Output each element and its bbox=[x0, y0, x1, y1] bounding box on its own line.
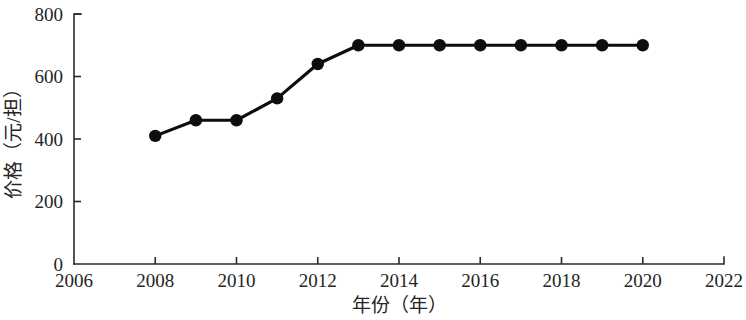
y-tick-label-600: 600 bbox=[35, 66, 64, 87]
x-tick-label-2006: 2006 bbox=[55, 270, 93, 291]
data-point-2015 bbox=[433, 39, 445, 51]
y-tick-label-200: 200 bbox=[35, 191, 64, 212]
data-point-2011 bbox=[271, 92, 283, 104]
x-tick-label-2018: 2018 bbox=[543, 270, 581, 291]
y-axis-title: 价格（元/担） bbox=[3, 79, 24, 198]
x-tick-label-2010: 2010 bbox=[218, 270, 256, 291]
x-tick-label-2020: 2020 bbox=[624, 270, 662, 291]
data-point-2013 bbox=[352, 39, 364, 51]
data-point-2019 bbox=[596, 39, 608, 51]
data-point-2008 bbox=[149, 130, 161, 142]
data-point-2018 bbox=[555, 39, 567, 51]
x-axis-title: 年份（年） bbox=[352, 295, 447, 316]
x-tick-label-2014: 2014 bbox=[380, 270, 419, 291]
data-point-2010 bbox=[230, 114, 242, 126]
y-tick-label-800: 800 bbox=[35, 4, 64, 25]
data-point-2012 bbox=[312, 58, 324, 70]
chart-canvas: 0200400600800 20062008201020122014201620… bbox=[0, 0, 746, 320]
x-tick-label-2016: 2016 bbox=[461, 270, 499, 291]
data-point-2009 bbox=[190, 114, 202, 126]
x-axis-tick-labels: 200620082010201220142016201820202022 bbox=[55, 270, 743, 291]
x-tick-label-2012: 2012 bbox=[299, 270, 337, 291]
y-tick-label-400: 400 bbox=[35, 129, 64, 150]
data-point-2014 bbox=[393, 39, 405, 51]
data-point-2016 bbox=[474, 39, 486, 51]
data-point-2020 bbox=[637, 39, 649, 51]
x-tick-label-2008: 2008 bbox=[136, 270, 174, 291]
data-point-2017 bbox=[515, 39, 527, 51]
x-tick-label-2022: 2022 bbox=[705, 270, 743, 291]
line-chart: 0200400600800 20062008201020122014201620… bbox=[0, 0, 746, 320]
